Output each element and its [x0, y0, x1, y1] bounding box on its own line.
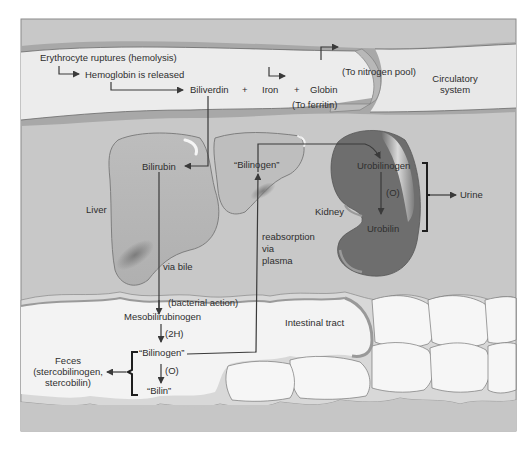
label-oxidation-kidney: (O): [386, 187, 400, 198]
label-reabsorption-1: reabsorption: [262, 231, 315, 242]
label-circulatory-2: system: [440, 84, 470, 95]
label-globin: Globin: [310, 84, 337, 95]
label-plus-1: +: [242, 84, 248, 95]
label-urine: Urine: [460, 189, 483, 200]
label-iron: Iron: [262, 84, 278, 95]
label-hemoglobin: Hemoglobin is released: [85, 69, 184, 80]
heme-degradation-diagram: Erythrocyte ruptures (hemolysis) Hemoglo…: [0, 0, 524, 454]
label-circulatory-1: Circulatory: [432, 73, 478, 84]
label-feces-1: Feces: [55, 355, 81, 366]
label-bilin: “Bilin”: [147, 385, 171, 396]
label-reabsorption-3: plasma: [262, 255, 293, 266]
label-intestinal-tract: Intestinal tract: [285, 317, 344, 328]
label-feces-3: stercobilin): [45, 377, 91, 388]
label-to-nitrogen: (To nitrogen pool): [342, 66, 416, 77]
label-urobilinogen: Urobilinogen: [357, 160, 410, 171]
label-oxidation-gut: (O): [165, 365, 179, 376]
label-bilirubin: Bilirubin: [142, 161, 176, 172]
label-via-bile: via bile: [163, 261, 193, 272]
kidney-shape: [331, 130, 420, 276]
label-liver: Liver: [86, 204, 107, 215]
label-mesobilirubinogen: Mesobilirubinogen: [124, 311, 201, 322]
label-biliverdin: Biliverdin: [190, 84, 229, 95]
label-bacterial-action: (bacterial action): [168, 297, 238, 308]
label-bilinogen-gut: “Bilinogen”: [139, 347, 184, 358]
label-to-ferritin: (To ferritin): [292, 99, 337, 110]
label-urobilin: Urobilin: [367, 223, 399, 234]
label-plus-2: +: [294, 84, 300, 95]
label-erythrocyte: Erythrocyte ruptures (hemolysis): [40, 52, 177, 63]
label-kidney: Kidney: [315, 206, 344, 217]
label-reabsorption-2: via: [262, 243, 275, 254]
label-bilinogen-liver: “Bilinogen”: [234, 159, 279, 170]
intestinal-tract: [21, 292, 516, 409]
label-2h: (2H): [165, 328, 183, 339]
label-feces-2: (stercobilinogen,: [33, 366, 103, 377]
